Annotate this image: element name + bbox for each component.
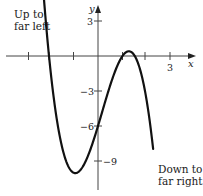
cubic-curve — [38, 0, 153, 173]
annotation-up-left: Up to far left — [14, 8, 50, 32]
x-tick-label-3: 3 — [167, 62, 173, 73]
y-axis-arrow-icon — [95, 5, 101, 13]
annotation-down-line2: far right — [158, 175, 203, 187]
y-tick-label-neg9: −9 — [103, 156, 117, 167]
annotation-down-line1: Down to — [158, 163, 203, 175]
annotation-up-line1: Up to — [14, 8, 50, 20]
y-tick-label-3: 3 — [87, 16, 93, 27]
y-tick-label-neg6: −6 — [80, 121, 94, 132]
cubic-function-graph: x y 3 3 −3 −6 −9 Up to far left Down to … — [0, 0, 203, 196]
x-axis-label: x — [188, 58, 194, 69]
annotation-down-right: Down to far right — [158, 163, 203, 187]
y-tick-label-neg3: −3 — [80, 86, 94, 97]
y-axis-label: y — [88, 3, 95, 14]
annotation-up-line2: far left — [14, 20, 50, 32]
